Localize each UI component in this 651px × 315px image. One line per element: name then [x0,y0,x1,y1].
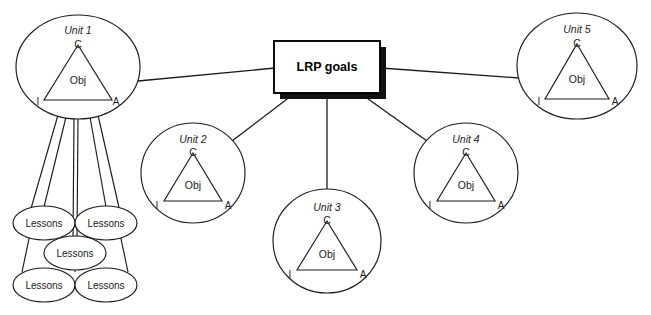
unit-5-right-corner-label: A [612,96,619,107]
unit-node-unit-5[interactable]: Unit 5 C Obj I A [517,13,637,119]
link-unit5-goals [381,68,519,78]
unit-2-label: Unit 2 [179,133,207,145]
unit-1-apex-label: C [74,38,82,50]
lesson-node-1[interactable]: Lessons [13,206,75,240]
lrp-goals-diagram: Unit 1 C Obj I A Unit 2 C Obj I A Unit 3… [0,0,651,315]
diagram-canvas: Unit 1 C Obj I A Unit 2 C Obj I A Unit 3… [0,0,651,315]
lesson-1-label: Lessons [25,218,62,229]
unit-node-unit-2[interactable]: Unit 2 C Obj I A [141,123,245,223]
lesson-3-label: Lessons [56,248,93,259]
unit-5-label: Unit 5 [563,23,591,35]
unit-node-unit-1[interactable]: Unit 1 C Obj I A [16,15,140,119]
lesson-link-2b [98,115,120,212]
lesson-link-1b [44,117,66,207]
lrp-goals-node[interactable]: LRP goals [274,41,386,99]
unit-5-apex-label: C [573,37,581,49]
unit-3-right-corner-label: A [360,269,367,280]
lessons-cluster: Lessons Lessons Lessons Lessons Lessons [13,206,137,302]
lesson-link-4 [22,234,30,272]
link-unit4-goals [364,96,427,141]
lesson-node-5[interactable]: Lessons [75,268,137,302]
unit-3-apex-label: C [323,214,331,226]
unit-node-unit-4[interactable]: Unit 4 C Obj I A [414,123,518,223]
unit-3-label: Unit 3 [313,201,341,213]
lesson-link-5 [120,234,128,272]
unit-2-apex-label: C [189,146,197,158]
unit-4-apex-label: C [462,146,470,158]
lesson-node-3[interactable]: Lessons [44,236,106,270]
unit-4-inner-label: Obj [458,179,474,191]
unit-1-right-corner-label: A [113,96,120,107]
unit-2-inner-label: Obj [185,179,201,191]
lesson-link-2 [90,117,106,207]
lesson-5-label: Lessons [87,280,124,291]
unit-2-left-corner-label: I [156,200,159,211]
unit-2-right-corner-label: A [225,200,232,211]
lesson-4-label: Lessons [25,280,62,291]
lesson-node-4[interactable]: Lessons [13,268,75,302]
link-unit2-goals [232,96,291,141]
unit-node-unit-3[interactable]: Unit 3 C Obj I A [273,189,381,293]
unit-5-inner-label: Obj [569,73,585,85]
link-unit1-goals [138,68,275,81]
unit-4-right-corner-label: A [498,200,505,211]
unit-4-left-corner-label: I [429,200,432,211]
lesson-2-label: Lessons [87,218,124,229]
unit-3-inner-label: Obj [319,248,335,260]
lrp-goals-label: LRP goals [297,60,358,74]
unit-3-left-corner-label: I [289,269,292,280]
unit-1-label: Unit 1 [64,24,91,36]
lesson-node-2[interactable]: Lessons [75,206,137,240]
lesson-link-1 [30,115,58,212]
unit-4-label: Unit 4 [452,133,480,145]
unit-1-left-corner-label: I [37,96,40,107]
unit-1-inner-label: Obj [70,74,86,86]
unit-5-left-corner-label: I [538,96,541,107]
